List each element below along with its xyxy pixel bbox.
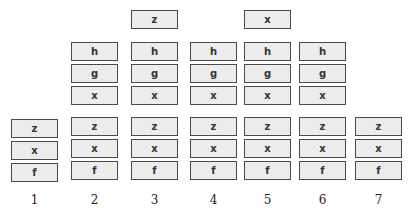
col7-box-f: f — [355, 161, 402, 180]
col3-box-f: f — [131, 161, 178, 180]
col3-box-x-top: x — [131, 86, 178, 105]
col1-box-z: z — [11, 119, 58, 138]
col6-box-z: z — [299, 117, 346, 136]
col3-box-extra-z: z — [131, 10, 178, 29]
col2-box-f: f — [71, 161, 118, 180]
col2-box-x-top: x — [71, 86, 118, 105]
col4-box-x: x — [190, 139, 237, 158]
col4-box-h: h — [190, 42, 237, 61]
col5-box-extra-x: x — [244, 10, 291, 29]
col6-label: 6 — [299, 193, 346, 207]
col3-box-h: h — [131, 42, 178, 61]
col6-box-x: x — [299, 139, 346, 158]
col5-box-x-top: x — [244, 86, 291, 105]
col1-label: 1 — [11, 193, 58, 207]
col4-box-f: f — [190, 161, 237, 180]
col6-box-f: f — [299, 161, 346, 180]
col5-box-f: f — [244, 161, 291, 180]
col6-box-h: h — [299, 42, 346, 61]
col5-label: 5 — [244, 193, 291, 207]
col4-box-x-top: x — [190, 86, 237, 105]
col3-box-g: g — [131, 64, 178, 83]
col4-box-z: z — [190, 117, 237, 136]
col3-box-x: x — [131, 139, 178, 158]
col2-box-g: g — [71, 64, 118, 83]
col2-box-h: h — [71, 42, 118, 61]
col5-box-x: x — [244, 139, 291, 158]
col2-box-z: z — [71, 117, 118, 136]
col4-label: 4 — [190, 193, 237, 207]
col3-label: 3 — [131, 193, 178, 207]
col5-box-g: g — [244, 64, 291, 83]
col2-label: 2 — [71, 193, 118, 207]
col5-box-z: z — [244, 117, 291, 136]
col5-box-h: h — [244, 42, 291, 61]
col2-box-x: x — [71, 139, 118, 158]
col6-box-x-top: x — [299, 86, 346, 105]
col7-box-x: x — [355, 139, 402, 158]
col3-box-z: z — [131, 117, 178, 136]
col4-box-g: g — [190, 64, 237, 83]
col7-box-z: z — [355, 117, 402, 136]
col1-box-x: x — [11, 141, 58, 160]
col1-box-f: f — [11, 163, 58, 182]
col6-box-g: g — [299, 64, 346, 83]
col7-label: 7 — [355, 193, 402, 207]
